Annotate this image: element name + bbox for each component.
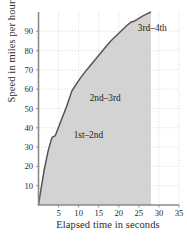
y-tick-label: 10 [13, 182, 33, 191]
x-tick-label: 30 [149, 209, 169, 218]
y-tick-label: 60 [13, 85, 33, 94]
x-tick-label: 10 [69, 209, 89, 218]
x-axis-title: Elapsed time in seconds [30, 219, 186, 230]
x-tick-label: 35 [169, 209, 187, 218]
chart-plot-area [0, 0, 187, 241]
y-tick-label: 40 [13, 124, 33, 133]
y-tick-label: 50 [13, 105, 33, 114]
x-tick-label: 20 [109, 209, 129, 218]
x-tick-label: 5 [49, 209, 69, 218]
y-tick-label: 90 [13, 27, 33, 36]
annotation-label: 3rd–4th [138, 24, 167, 33]
x-tick-label: 15 [89, 209, 109, 218]
x-tick-label: 25 [129, 209, 149, 218]
y-tick-label: 70 [13, 66, 33, 75]
y-tick-label: 30 [13, 143, 33, 152]
annotation-label: 2nd–3rd [90, 94, 121, 103]
annotation-label: 1st–2nd [74, 131, 103, 140]
speed-vs-time-chart: Speed in miles per hour Elapsed time in … [0, 0, 187, 241]
y-tick-label: 20 [13, 162, 33, 171]
y-tick-label: 80 [13, 47, 33, 56]
